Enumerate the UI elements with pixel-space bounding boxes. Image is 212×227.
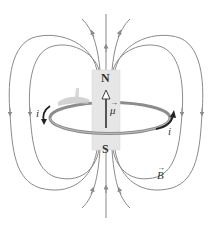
- south-pole-label: S: [102, 143, 109, 155]
- magnet-loop-diagram: [0, 0, 212, 227]
- vector-arrow-icon: →: [157, 164, 165, 172]
- vector-arrow-icon: →: [110, 99, 118, 107]
- field-line-left-inner: [29, 45, 99, 179]
- current-label-left: i: [36, 108, 39, 119]
- field-line-top-left: [82, 19, 100, 70]
- moment-label: → μ: [110, 105, 116, 116]
- current-label-right: i: [168, 126, 171, 137]
- field-line-top-right: [112, 19, 130, 70]
- field-line-bottom-right: [112, 150, 130, 208]
- field-line-bottom-left: [82, 150, 100, 208]
- field-label: → B: [157, 170, 164, 181]
- field-line-right-inner: [113, 45, 183, 179]
- north-pole-label: N: [101, 72, 110, 84]
